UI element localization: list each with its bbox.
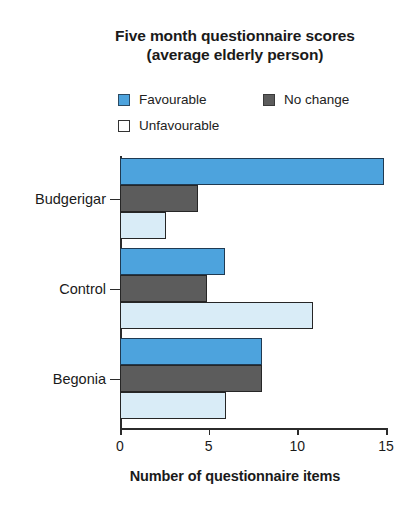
y-tick-begonia <box>110 379 120 381</box>
plot-area: BudgerigarControlBegonia 051015 <box>0 0 414 511</box>
x-axis-line <box>120 428 386 430</box>
bar-control-favourable <box>120 248 225 275</box>
x-tick-label-10: 10 <box>290 438 306 454</box>
x-tick-label-0: 0 <box>116 438 124 454</box>
y-tick-control <box>110 289 120 291</box>
x-tick-5 <box>209 428 211 435</box>
x-tick-label-15: 15 <box>378 438 394 454</box>
category-label-control: Control <box>59 281 106 297</box>
bar-budgerigar-no-change <box>120 185 198 212</box>
x-tick-label-5: 5 <box>205 438 213 454</box>
y-tick-budgerigar <box>110 199 120 201</box>
bar-begonia-favourable <box>120 338 262 365</box>
category-label-begonia: Begonia <box>53 371 106 387</box>
bar-budgerigar-unfavourable <box>120 212 166 239</box>
bar-control-no-change <box>120 275 207 302</box>
bar-budgerigar-favourable <box>120 158 384 185</box>
bar-control-unfavourable <box>120 302 313 329</box>
x-axis-title: Number of questionnaire items <box>60 468 410 484</box>
category-label-budgerigar: Budgerigar <box>35 191 106 207</box>
x-tick-0 <box>120 428 122 435</box>
bar-chart-figure: Five month questionnaire scores (average… <box>0 0 414 511</box>
bar-begonia-no-change <box>120 365 262 392</box>
bar-begonia-unfavourable <box>120 392 226 419</box>
x-tick-10 <box>297 428 299 435</box>
x-tick-15 <box>386 428 388 435</box>
